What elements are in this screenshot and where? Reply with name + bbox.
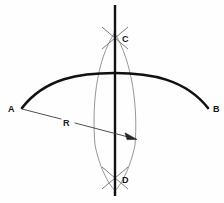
label-point-d: D (122, 175, 129, 185)
geometry-figure: A B C D R (0, 0, 224, 203)
construction-diagram-svg: A B C D R (0, 0, 224, 203)
label-radius-r: R (63, 118, 70, 128)
figure-background (0, 0, 224, 203)
label-point-b: B (213, 104, 220, 114)
label-point-a: A (8, 104, 15, 114)
label-point-c: C (122, 34, 129, 44)
